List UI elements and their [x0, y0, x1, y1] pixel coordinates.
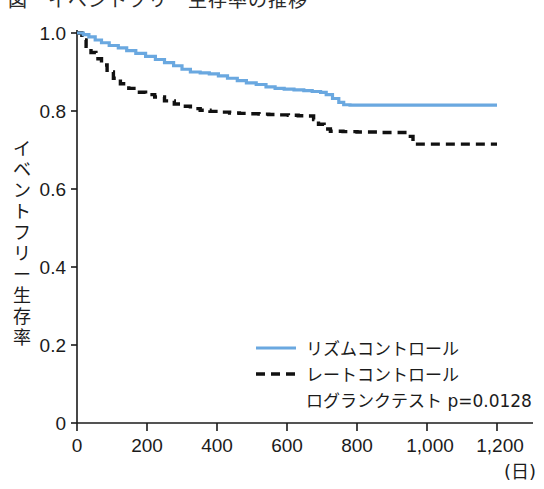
y-axis-title: イベントフリー生存率	[13, 138, 31, 348]
legend-label-rhythm-control: リズムコントロール	[306, 339, 459, 359]
y-axis-title-char: ー	[13, 264, 31, 285]
y-tick-label-0.6: 0.6	[40, 179, 66, 200]
y-axis-title-char: リ	[13, 243, 31, 264]
y-axis-title-char: 生	[13, 285, 31, 306]
x-tick-label-800: 800	[341, 435, 373, 456]
y-axis-title-char: 存	[13, 306, 31, 327]
x-tick-label-1200: 1,200	[476, 435, 524, 456]
y-tick-label-0.2: 0.2	[40, 335, 66, 356]
y-axis-title-char: ト	[13, 201, 31, 222]
survival-curve-figure: 図 イベントフリー生存率の推移 1.0 0.8 0.6 0.4 0.2 0	[0, 0, 544, 489]
x-tick-label-1000: 1,000	[406, 435, 454, 456]
y-axis-title-char: フ	[13, 222, 31, 243]
y-tick-label-1.0: 1.0	[40, 23, 66, 44]
data-series	[77, 33, 497, 144]
y-tick-label-0.8: 0.8	[40, 101, 66, 122]
logrank-test-annotation: ログランクテスト p=0.0128	[306, 391, 532, 411]
chart-canvas: 1.0 0.8 0.6 0.4 0.2 0 0 200 400 600 800 …	[0, 0, 544, 489]
y-tick-label-0: 0	[55, 413, 66, 434]
y-axis-title-char: 率	[13, 327, 31, 348]
x-tick-label-0: 0	[72, 435, 83, 456]
y-axis-title-char: ン	[13, 180, 31, 201]
x-tick-label-600: 600	[271, 435, 303, 456]
series-line-rhythm-control	[77, 33, 497, 105]
x-axis-unit-label: (日)	[504, 461, 536, 482]
legend: リズムコントロール レートコントロール ログランクテスト p=0.0128	[256, 339, 532, 411]
y-axis-ticks: 1.0 0.8 0.6 0.4 0.2 0	[40, 23, 77, 434]
x-tick-label-200: 200	[131, 435, 163, 456]
cut-off-caption-text: 図 イベントフリー生存率の推移	[8, 0, 308, 11]
y-axis-title-char: イ	[13, 138, 31, 159]
x-tick-label-400: 400	[201, 435, 233, 456]
y-tick-label-0.4: 0.4	[40, 257, 67, 278]
x-axis-ticks: 0 200 400 600 800 1,000 1,200 (日)	[72, 423, 536, 482]
legend-label-rate-control: レートコントロール	[306, 365, 459, 385]
y-axis-title-char: ベ	[13, 159, 31, 180]
cut-off-caption-strip: 図 イベントフリー生存率の推移	[0, 0, 544, 11]
